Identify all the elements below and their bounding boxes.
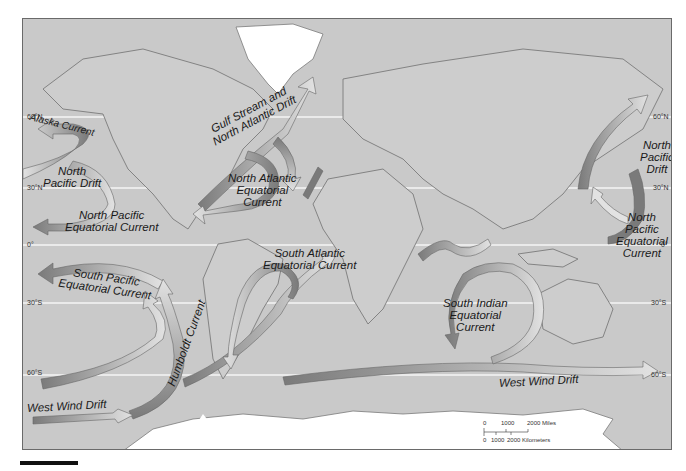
- scale-km-1000: 1000: [491, 437, 504, 443]
- scale-km-2000: 2000 Kilometers: [507, 437, 550, 443]
- caption-rule: [20, 461, 78, 465]
- scale-lines: [23, 19, 672, 450]
- scale-km-0: 0: [483, 437, 486, 443]
- world-currents-map: 60°N 30°N 0° 30°S 60°S 60°N 30°N 0° 30°S…: [22, 18, 672, 450]
